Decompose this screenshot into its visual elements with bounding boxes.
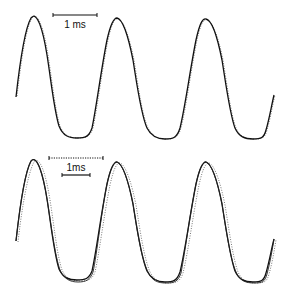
bottom-scale-bars: 1ms — [49, 156, 103, 177]
figure: 1 ms 1ms — [0, 0, 289, 302]
bottom-panel: 1ms — [16, 156, 276, 283]
top-trace-dotted — [17, 16, 275, 139]
bottom-trace-dotted — [18, 161, 276, 283]
bottom-scale-label: 1ms — [67, 162, 86, 173]
top-trace-solid — [16, 16, 274, 139]
bottom-trace-solid-2 — [16, 160, 274, 283]
top-scale-bar: 1 ms — [53, 13, 97, 30]
top-panel: 1 ms — [16, 13, 275, 139]
top-scale-label: 1 ms — [64, 19, 86, 30]
